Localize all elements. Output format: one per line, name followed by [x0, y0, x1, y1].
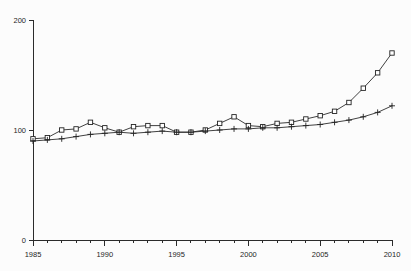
- chart-container: 0100200 198519901995200020052010: [0, 0, 411, 271]
- y-axis: 0100200: [13, 16, 33, 245]
- data-point-marker: [87, 131, 93, 137]
- data-point-marker: [232, 115, 236, 119]
- x-axis-tick-label: 2000: [240, 250, 257, 259]
- data-point-marker: [375, 71, 379, 75]
- y-axis-tick-label: 200: [13, 16, 26, 25]
- data-point-marker: [304, 117, 308, 121]
- data-point-marker: [73, 134, 79, 140]
- series-polyline: [33, 106, 392, 141]
- data-point-marker: [74, 127, 78, 131]
- data-point-marker: [217, 121, 221, 125]
- data-point-marker: [332, 119, 338, 125]
- data-point-marker: [360, 114, 366, 120]
- series-polyline: [33, 53, 392, 139]
- data-point-marker: [102, 130, 108, 136]
- y-axis-tick-label: 100: [13, 126, 26, 135]
- series-layer: [30, 51, 395, 144]
- data-point-marker: [231, 126, 237, 132]
- data-point-marker: [159, 128, 165, 134]
- data-point-marker: [318, 114, 322, 118]
- data-point-marker: [347, 100, 351, 104]
- line-chart: 0100200 198519901995200020052010: [0, 0, 411, 271]
- x-axis: 198519901995200020052010: [25, 240, 401, 259]
- data-point-marker: [131, 130, 137, 136]
- data-point-marker: [103, 126, 107, 130]
- data-point-marker: [59, 136, 65, 142]
- series-plus: [30, 103, 395, 144]
- data-point-marker: [146, 123, 150, 127]
- data-point-marker: [88, 120, 92, 124]
- data-point-marker: [160, 123, 164, 127]
- x-axis-tick-label: 2010: [384, 250, 401, 259]
- x-axis-tick-label: 1990: [96, 250, 113, 259]
- data-point-marker: [217, 127, 223, 133]
- data-point-marker: [131, 125, 135, 129]
- data-point-marker: [346, 117, 352, 123]
- x-axis-tick-label: 1995: [168, 250, 185, 259]
- data-point-marker: [332, 109, 336, 113]
- data-point-marker: [60, 128, 64, 132]
- data-point-marker: [317, 122, 323, 128]
- data-point-marker: [303, 123, 309, 129]
- data-point-marker: [375, 109, 381, 115]
- data-point-marker: [389, 103, 395, 109]
- data-point-marker: [390, 51, 394, 55]
- series-square: [31, 51, 394, 141]
- data-point-marker: [145, 129, 151, 135]
- x-axis-tick-label: 1985: [25, 250, 42, 259]
- x-axis-tick-label: 2005: [312, 250, 329, 259]
- y-axis-tick-label: 0: [22, 236, 26, 245]
- data-point-marker: [361, 86, 365, 90]
